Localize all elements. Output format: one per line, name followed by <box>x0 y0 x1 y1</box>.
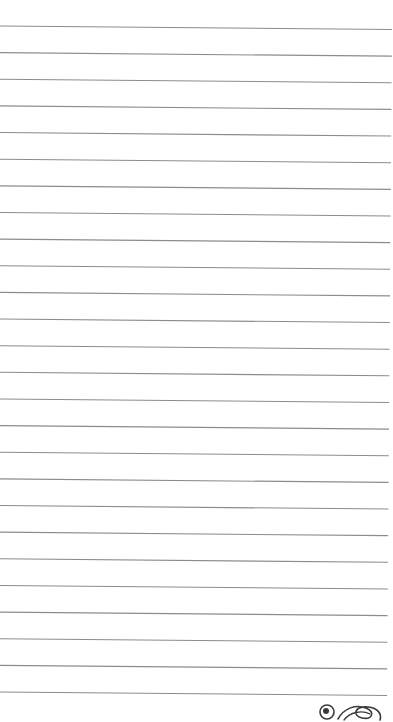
doodle-logo-icon <box>318 702 384 722</box>
ruled-line <box>0 26 392 30</box>
ruled-line <box>0 106 391 110</box>
ruled-line <box>0 479 389 483</box>
ruled-line <box>0 319 390 323</box>
ruled-line <box>0 53 392 57</box>
ruled-line <box>0 399 389 403</box>
ruled-line <box>0 452 389 456</box>
ruled-line <box>0 266 390 270</box>
ruled-line <box>0 612 388 616</box>
ruled-line <box>0 133 391 137</box>
ruled-line <box>0 639 387 643</box>
ruled-line <box>0 372 389 376</box>
ruled-line <box>0 346 390 350</box>
ruled-line <box>0 239 390 243</box>
ruled-line <box>0 506 388 510</box>
ruled-line <box>0 79 392 83</box>
ruled-line <box>0 292 390 296</box>
ruled-line <box>0 692 387 696</box>
ruled-line <box>0 559 388 563</box>
ruled-line <box>0 159 391 163</box>
ruled-line <box>0 665 387 669</box>
ruled-line <box>0 186 391 190</box>
ruled-line <box>0 585 388 589</box>
ruled-line <box>0 212 391 216</box>
ruled-line <box>0 532 388 536</box>
ruled-line <box>0 426 389 430</box>
